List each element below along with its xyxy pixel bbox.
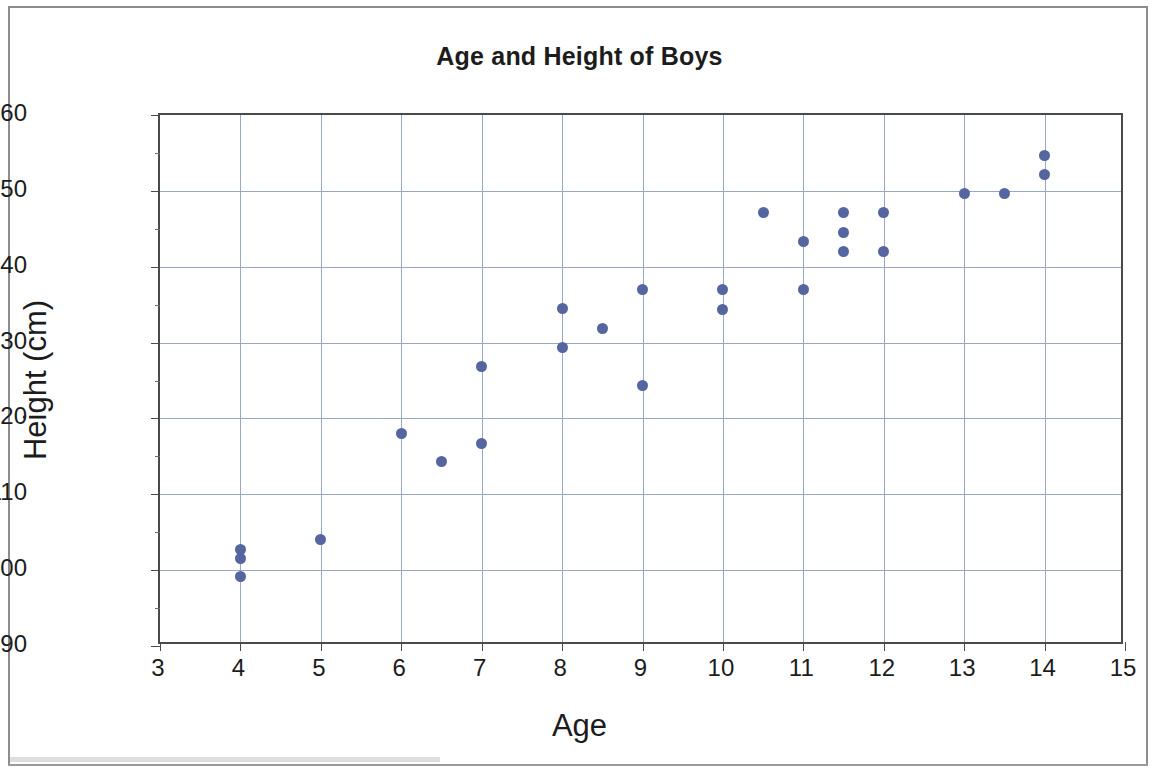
x-axis-tick-label: 11 bbox=[761, 654, 841, 682]
data-point bbox=[878, 207, 889, 218]
gridline-horizontal bbox=[160, 267, 1121, 268]
data-point bbox=[315, 534, 326, 545]
data-point bbox=[1039, 150, 1050, 161]
data-point bbox=[798, 284, 809, 295]
gridline-vertical bbox=[562, 115, 563, 642]
data-point bbox=[758, 207, 769, 218]
x-axis-tick-mark bbox=[1045, 642, 1046, 651]
x-axis-title: Age bbox=[0, 708, 1159, 744]
x-axis-tick-mark bbox=[803, 642, 804, 651]
gridline-horizontal bbox=[160, 570, 1121, 571]
x-axis-tick-label: 7 bbox=[440, 654, 520, 682]
y-axis-tick-mark bbox=[151, 115, 160, 116]
x-axis-tick-label: 13 bbox=[922, 654, 1002, 682]
y-axis-minor-tick-mark bbox=[155, 608, 160, 609]
y-axis-minor-tick-mark bbox=[155, 532, 160, 533]
y-axis-tick-label: 90 bbox=[0, 630, 27, 658]
y-axis-title-text: Height (cm) bbox=[18, 155, 54, 605]
gridline-vertical bbox=[884, 115, 885, 642]
data-point bbox=[999, 188, 1010, 199]
y-axis-minor-tick-mark bbox=[155, 153, 160, 154]
x-axis-tick-label: 6 bbox=[359, 654, 439, 682]
y-axis-tick-mark bbox=[151, 418, 160, 419]
page-frame-bottom-edge bbox=[8, 764, 1148, 766]
data-point bbox=[476, 438, 487, 449]
data-point bbox=[637, 380, 648, 391]
y-axis-minor-tick-mark bbox=[155, 305, 160, 306]
data-point bbox=[476, 361, 487, 372]
data-point bbox=[1039, 169, 1050, 180]
gridline-vertical bbox=[803, 115, 804, 642]
x-axis-tick-mark bbox=[240, 642, 241, 651]
data-point bbox=[959, 188, 970, 199]
x-axis-tick-label: 5 bbox=[279, 654, 359, 682]
data-point bbox=[637, 284, 648, 295]
x-axis-tick-label: 4 bbox=[198, 654, 278, 682]
x-axis-tick-label: 8 bbox=[520, 654, 600, 682]
data-point bbox=[798, 236, 809, 247]
data-point bbox=[838, 227, 849, 238]
y-axis-minor-tick-mark bbox=[155, 381, 160, 382]
data-point bbox=[557, 342, 568, 353]
x-axis-tick-label: 10 bbox=[681, 654, 761, 682]
data-point bbox=[878, 246, 889, 257]
data-point bbox=[436, 456, 447, 467]
gridline-horizontal bbox=[160, 494, 1121, 495]
data-point bbox=[717, 304, 728, 315]
gridline-horizontal bbox=[160, 191, 1121, 192]
chart-page: Age and Height of Boys 90100110120130140… bbox=[0, 0, 1159, 775]
page-scan-artifact bbox=[10, 757, 440, 762]
x-axis-tick-label: 15 bbox=[1083, 654, 1159, 682]
gridline-vertical bbox=[643, 115, 644, 642]
x-axis-tick-mark bbox=[401, 642, 402, 651]
x-axis-tick-mark bbox=[1125, 642, 1126, 651]
x-axis-tick-mark bbox=[643, 642, 644, 651]
y-axis-tick-mark bbox=[151, 191, 160, 192]
plot-area bbox=[158, 113, 1123, 644]
gridline-vertical bbox=[321, 115, 322, 642]
data-point bbox=[235, 571, 246, 582]
x-axis-tick-mark bbox=[482, 642, 483, 651]
gridline-vertical bbox=[482, 115, 483, 642]
data-point bbox=[597, 323, 608, 334]
y-axis-tick-mark bbox=[151, 570, 160, 571]
gridline-horizontal bbox=[160, 418, 1121, 419]
x-axis-tick-mark bbox=[321, 642, 322, 651]
page-frame-top-edge bbox=[8, 6, 1148, 8]
y-axis-tick-mark bbox=[151, 494, 160, 495]
gridline-vertical bbox=[723, 115, 724, 642]
y-axis-title: Height (cm) bbox=[18, 0, 54, 155]
data-point bbox=[235, 553, 246, 564]
x-axis-tick-mark bbox=[562, 642, 563, 651]
x-axis-tick-label: 9 bbox=[601, 654, 681, 682]
chart-title: Age and Height of Boys bbox=[0, 42, 1159, 71]
data-point bbox=[717, 284, 728, 295]
gridline-vertical bbox=[1045, 115, 1046, 642]
y-axis-tick-mark bbox=[151, 343, 160, 344]
x-axis-tick-label: 3 bbox=[118, 654, 198, 682]
page-frame-right-edge bbox=[1146, 6, 1148, 766]
data-point bbox=[838, 207, 849, 218]
x-axis-tick-mark bbox=[884, 642, 885, 651]
gridline-horizontal bbox=[160, 343, 1121, 344]
data-point bbox=[396, 428, 407, 439]
data-point bbox=[838, 246, 849, 257]
x-axis-tick-mark bbox=[964, 642, 965, 651]
y-axis-minor-tick-mark bbox=[155, 456, 160, 457]
y-axis-tick-mark bbox=[151, 646, 160, 647]
y-axis-tick-mark bbox=[151, 267, 160, 268]
gridline-vertical bbox=[401, 115, 402, 642]
data-point bbox=[557, 303, 568, 314]
x-axis-tick-label: 12 bbox=[842, 654, 922, 682]
y-axis-minor-tick-mark bbox=[155, 229, 160, 230]
x-axis-tick-mark bbox=[723, 642, 724, 651]
x-axis-tick-mark bbox=[160, 642, 161, 651]
x-axis-tick-label: 14 bbox=[1003, 654, 1083, 682]
